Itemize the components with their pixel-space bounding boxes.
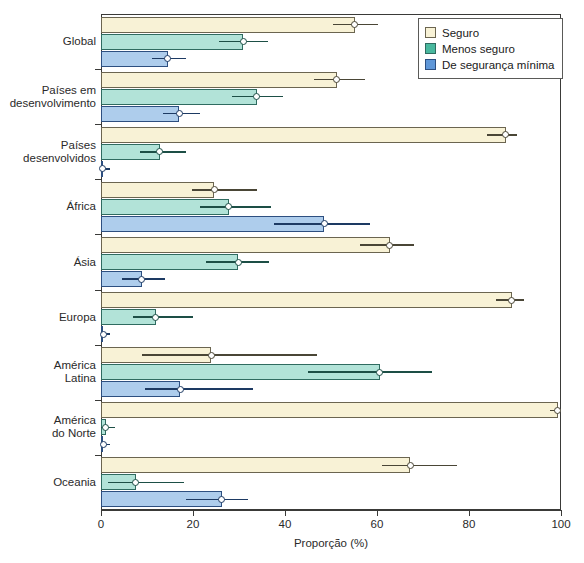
x-axis-tick-label: 20 [187,518,200,530]
x-axis-line [101,510,561,511]
x-axis-tick-label: 100 [551,518,570,530]
data-point-marker [164,55,171,62]
y-axis-tick [95,400,101,401]
y-axis-tick [95,124,101,125]
bar-row [0,419,584,435]
data-point-marker [502,131,509,138]
x-axis-tick-label: 60 [371,518,384,530]
bar-group [0,402,584,452]
bar-row [0,474,584,490]
bar-group [0,72,584,122]
legend-label-seguranca-minima: De segurança mínima [442,59,555,71]
data-point-marker [386,242,393,249]
error-bar [308,371,432,373]
bar-seguro [101,72,337,88]
bar-row [0,457,584,473]
legend-item-seguro: Seguro [425,25,555,40]
bar-seguro [101,17,355,33]
bar-row [0,216,584,232]
x-axis-tick [101,510,102,516]
error-bar [192,189,257,191]
bar-row [0,182,584,198]
bar-row [0,491,584,507]
data-point-marker [102,424,109,431]
bar-row [0,364,584,380]
bar-row [0,127,584,143]
data-point-marker [253,93,260,100]
data-point-marker [218,496,225,503]
data-point-marker [407,462,414,469]
x-axis-tick-label: 40 [279,518,292,530]
bar-row [0,271,584,287]
y-axis-tick [95,345,101,346]
bar-group [0,457,584,507]
x-axis-tick [469,510,470,516]
error-bar [145,388,253,390]
chart-container: GlobalPaíses em desenvolvimentoPaíses de… [0,0,584,563]
bar-row [0,292,584,308]
x-axis-tick-label: 80 [463,518,476,530]
data-point-marker [211,186,218,193]
x-axis-tick [377,510,378,516]
bar-row [0,89,584,105]
x-axis-title: Proporção (%) [101,537,561,549]
data-point-marker [138,276,145,283]
bar-row [0,326,584,342]
data-point-marker [240,38,247,45]
bar-group [0,292,584,342]
error-bar [200,206,271,208]
bar-seguro [101,292,512,308]
data-point-marker [99,165,106,172]
bar-group [0,237,584,287]
error-bar [108,482,184,484]
bar-row [0,254,584,270]
bar-row [0,436,584,452]
data-point-marker [100,331,107,338]
error-bar [133,316,193,318]
data-point-marker [100,441,107,448]
data-point-marker [156,148,163,155]
legend-label-seguro: Seguro [442,27,479,39]
bar-seguro [101,127,506,143]
legend-label-menos-seguro: Menos seguro [442,43,515,55]
data-point-marker [208,352,215,359]
bar-seguro [101,457,410,473]
bar-seguro [101,237,390,253]
legend-item-menos-seguro: Menos seguro [425,41,555,56]
chart-legend: Seguro Menos seguro De segurança mínima [418,18,563,79]
x-axis-tick [285,510,286,516]
legend-item-seguranca-minima: De segurança mínima [425,57,555,72]
bar-group [0,182,584,232]
x-axis-tick [193,510,194,516]
bar-row [0,402,584,418]
bar-group [0,347,584,397]
error-bar [142,354,317,356]
data-point-marker [508,297,515,304]
data-point-marker [351,21,358,28]
y-axis-tick [95,290,101,291]
bar-seguro [101,402,558,418]
x-axis-tick-label: 0 [98,518,104,530]
bar-row [0,161,584,177]
data-point-marker [132,479,139,486]
legend-swatch-seguro-icon [425,27,436,38]
data-point-marker [176,110,183,117]
legend-swatch-menos-seguro-icon [425,43,436,54]
data-point-marker [376,369,383,376]
bar-group [0,127,584,177]
data-point-marker [225,203,232,210]
data-point-marker [235,259,242,266]
bar-row [0,237,584,253]
error-bar [140,151,186,153]
bar-row [0,106,584,122]
y-axis-tick [95,234,101,235]
data-point-marker [333,76,340,83]
bar-row [0,381,584,397]
data-point-marker [321,220,328,227]
y-axis-tick [95,69,101,70]
error-bar [186,499,248,501]
data-point-marker [177,386,184,393]
x-axis-tick [561,510,562,516]
bar-row [0,347,584,363]
error-bar [382,465,458,467]
